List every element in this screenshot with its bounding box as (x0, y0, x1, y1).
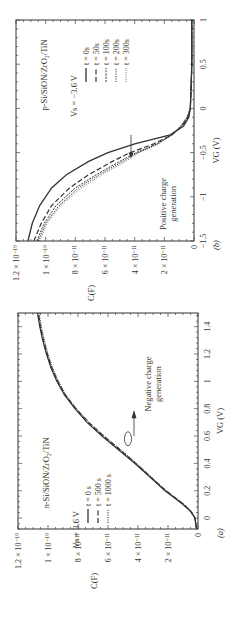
legend-entry: t = 1000 s (104, 474, 113, 506)
x-tick-label: 1 (199, 18, 208, 22)
x-tick-label: 0.2 (203, 486, 212, 496)
annotation-text: Negative charge (143, 356, 153, 412)
y-tick-label: 0 (194, 533, 203, 537)
x-tick-label: 0 (199, 106, 208, 110)
arrow-head-icon (132, 410, 137, 418)
y-tick-label: 2 × 10⁻¹¹ (164, 532, 173, 562)
x-tick-label: 0.6 (203, 431, 212, 441)
legend-entry: t = 50s (92, 43, 101, 65)
y-tick-label: 0 (190, 245, 199, 249)
legend-entry: t = 0s (82, 47, 91, 65)
x-tick-label: 0.4 (203, 458, 212, 468)
y-axis-label: C(F) (89, 573, 99, 589)
legend-entry: t = 300s (122, 39, 131, 65)
series-line-1 (38, 313, 196, 529)
y-tick-label: 1.2 × 10⁻¹⁰ (14, 533, 23, 569)
stack-title: p-Si/SiON/ZrO₂/TiN (39, 39, 49, 110)
x-axis-label: VG (V) (215, 408, 225, 434)
chart-panel-b: −1.5−1−0.500.5102 × 10⁻¹¹4 × 10⁻¹¹6 × 10… (12, 18, 221, 301)
x-tick-label: 0 (203, 516, 212, 520)
x-tick-label: 1 (203, 379, 212, 383)
figure-cv-curves: −1.5−1−0.500.5102 × 10⁻¹¹4 × 10⁻¹¹6 × 10… (0, 0, 234, 618)
stress-voltage-label: Vs = −3.6 V (69, 74, 79, 117)
y-tick-label: 1 × 10⁻¹⁰ (42, 245, 51, 275)
annotation-text: generation (153, 365, 163, 402)
y-tick-label: 1.2 × 10⁻¹⁰ (12, 245, 21, 281)
chart-panel-a: 00.20.40.60.811.21.402 × 10⁻¹¹4 × 10⁻¹¹6… (14, 313, 225, 589)
legend-entry: t = 100s (102, 39, 111, 65)
legend-entry: t = 200s (112, 39, 121, 65)
highlight-ellipse (125, 432, 132, 446)
y-tick-label: 1 × 10⁻¹⁰ (44, 533, 53, 563)
panel-label: (a) (215, 528, 225, 538)
y-tick-label: 4 × 10⁻¹¹ (131, 244, 140, 274)
stack-title: n-Si/SiON/ZrO₂/TiN (41, 437, 51, 508)
legend: Vs = −3.6 Vt = 0st = 50st = 100st = 200s… (69, 39, 131, 117)
y-tick-label: 4 × 10⁻¹¹ (134, 532, 143, 562)
y-tick-label: 6 × 10⁻¹¹ (101, 244, 110, 274)
x-tick-label: −1.5 (199, 234, 208, 249)
x-tick-label: 0.8 (203, 404, 212, 414)
stress-voltage-label: Vs = 3.6 V (71, 510, 81, 548)
x-tick-label: 1.2 (203, 349, 212, 359)
annotation-text: Positive charge (158, 178, 168, 230)
y-tick-label: 8 × 10⁻¹¹ (71, 244, 80, 274)
y-tick-label: 6 × 10⁻¹¹ (104, 532, 113, 562)
x-tick-label: 1.4 (203, 322, 212, 332)
x-tick-label: 0.5 (199, 59, 208, 69)
annotation-text: generation (168, 185, 178, 222)
x-tick-label: −1 (199, 193, 208, 202)
x-tick-label: −0.5 (199, 145, 208, 160)
y-tick-label: 2 × 10⁻¹¹ (160, 244, 169, 274)
legend-entry: t = 0 s (84, 486, 93, 506)
x-axis-label: VG (V) (211, 137, 221, 163)
legend-entry: t = 500 s (94, 478, 103, 506)
panel-label: (b) (211, 240, 221, 250)
y-axis-label: C(F) (86, 285, 96, 301)
arrow-head-icon (129, 153, 134, 158)
